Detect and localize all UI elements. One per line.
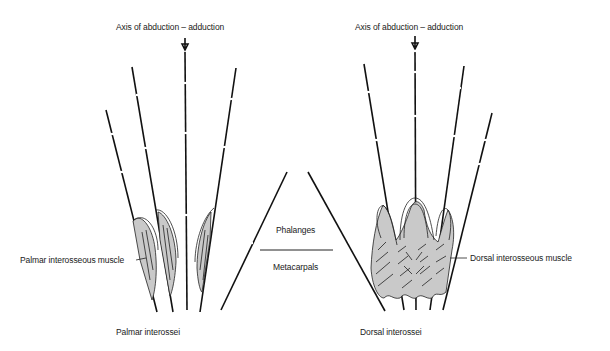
- axis-arrow-icon: [412, 36, 418, 49]
- phalanges-label: Phalanges: [276, 225, 315, 235]
- axis-arrow-icon: [182, 38, 188, 50]
- dorsal-caption: Dorsal interossei: [360, 327, 422, 337]
- metacarpals-label: Metacarpals: [273, 262, 318, 272]
- right-axis-label: Axis of abduction – adduction: [355, 22, 463, 32]
- diagram-canvas: [0, 0, 610, 351]
- dorsal-interossei-diagram: [308, 36, 492, 310]
- legend-triangle: [221, 172, 385, 311]
- palmar-muscle-label: Palmar interosseous muscle: [20, 255, 124, 265]
- dorsal-muscle-label: Dorsal interosseous muscle: [470, 253, 572, 263]
- palmar-caption: Palmar interossei: [116, 327, 180, 337]
- left-axis-label: Axis of abduction – adduction: [116, 22, 224, 32]
- palmar-interossei-diagram: [106, 38, 236, 312]
